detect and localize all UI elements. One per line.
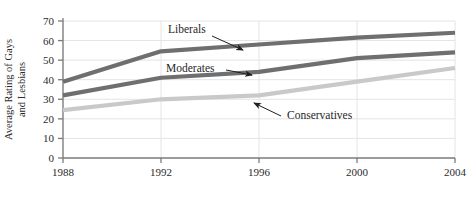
y-axis-title-line: and Lesbians bbox=[16, 62, 27, 117]
x-axis-tick-label: 1988 bbox=[52, 166, 75, 178]
y-axis-tick-label: 60 bbox=[43, 35, 55, 47]
y-axis-tick-label: 20 bbox=[43, 113, 55, 125]
annotation-label-conservatives: Conservatives bbox=[287, 109, 353, 121]
y-axis-tick-label: 50 bbox=[43, 54, 55, 66]
y-axis-tick-label: 0 bbox=[49, 152, 55, 164]
y-axis-tick-label: 70 bbox=[43, 15, 55, 27]
y-axis-title-line: Average Rating of Gays bbox=[3, 39, 14, 140]
x-axis-tick-label: 2004 bbox=[444, 166, 467, 178]
x-axis-tick-label: 1992 bbox=[150, 166, 172, 178]
y-axis-tick-label: 10 bbox=[43, 132, 55, 144]
annotation-label-moderates: Moderates bbox=[166, 62, 215, 74]
x-axis-tick-label: 1996 bbox=[248, 166, 271, 178]
x-axis-tick-label: 2000 bbox=[346, 166, 369, 178]
y-axis-tick-label: 40 bbox=[43, 74, 55, 86]
y-axis-title: Average Rating of Gaysand Lesbians bbox=[3, 39, 27, 140]
line-chart: 01020304050607019881992199620002004Avera… bbox=[0, 0, 468, 202]
chart-container: 01020304050607019881992199620002004Avera… bbox=[0, 0, 468, 202]
annotation-label-liberals: Liberals bbox=[168, 23, 206, 35]
annotation-arrow-conservatives bbox=[254, 103, 281, 116]
y-axis-tick-label: 30 bbox=[43, 93, 55, 105]
